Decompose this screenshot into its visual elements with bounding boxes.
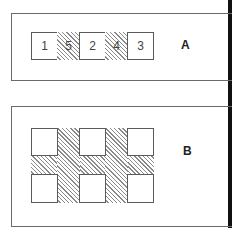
hatch-horizontal-band xyxy=(31,155,154,175)
grid-square-r1c1 xyxy=(31,128,58,156)
cell-label: 5 xyxy=(65,39,72,53)
cell-label: 3 xyxy=(137,39,144,53)
grid-square-r2c2 xyxy=(79,174,106,203)
cell-3: 3 xyxy=(127,32,154,60)
grid-square-r1c3 xyxy=(127,128,154,156)
hatch-vertical-band-1 xyxy=(57,128,80,203)
cell-label: 2 xyxy=(89,39,96,53)
hatch-vertical-band-2 xyxy=(105,128,128,203)
cell-1: 1 xyxy=(31,32,58,60)
cell-2: 2 xyxy=(79,32,106,60)
panel-b-label: B xyxy=(183,144,192,158)
cell-label: 1 xyxy=(41,39,48,53)
panel-a-label: A xyxy=(181,38,190,52)
grid-square-r2c3 xyxy=(127,174,154,203)
grid-square-r2c1 xyxy=(31,174,58,203)
cell-label: 4 xyxy=(113,39,120,53)
cell-5-hatched: 5 xyxy=(57,32,80,60)
grid-square-r1c2 xyxy=(79,128,106,156)
cell-4-hatched: 4 xyxy=(105,32,128,60)
